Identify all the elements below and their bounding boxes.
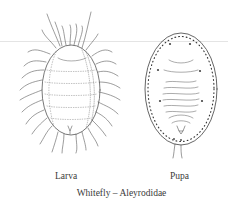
pupa-label: Pupa	[170, 172, 189, 182]
pupa-marginal-dots	[148, 37, 214, 142]
pupa-caudal-setae	[173, 144, 182, 158]
figure-caption: Whitefly – Aleyrodidae	[0, 189, 228, 199]
larva-stipple	[45, 50, 97, 128]
pupa-drawing	[145, 33, 217, 158]
larva-drawing	[20, 12, 120, 153]
larva-label: Larva	[55, 172, 77, 182]
pupa-body	[145, 33, 217, 145]
whitefly-illustration	[0, 0, 228, 209]
pupa-vasiform-orifice	[177, 126, 185, 134]
pupa-segments	[163, 60, 199, 123]
pupa-spots	[157, 43, 203, 141]
